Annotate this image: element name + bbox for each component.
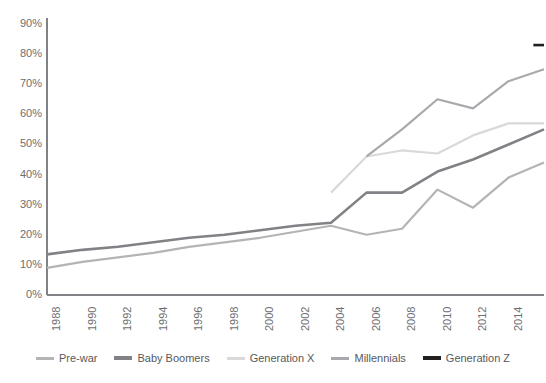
x-tick-2010: 2010	[442, 307, 453, 331]
x-tick-2000: 2000	[264, 307, 275, 331]
legend-swatch-icon	[423, 356, 441, 360]
line-chart: 90%80%70%60%50%40%30%20%10%0% 1988199019…	[0, 0, 546, 383]
legend-item-millennials[interactable]: Millennials	[331, 352, 405, 364]
x-tick-1990: 1990	[87, 307, 98, 331]
y-tick-0: 0%	[2, 289, 42, 300]
chart-legend: Pre-warBaby BoomersGeneration XMillennia…	[0, 352, 546, 364]
x-tick-2008: 2008	[406, 307, 417, 331]
legend-swatch-icon	[114, 356, 132, 360]
x-tick-2014: 2014	[513, 307, 524, 331]
y-tick-20: 20%	[2, 229, 42, 240]
x-tick-2012: 2012	[477, 307, 488, 331]
x-tick-1992: 1992	[122, 307, 133, 331]
series-line-baby-boomers	[47, 129, 544, 254]
y-tick-40: 40%	[2, 169, 42, 180]
legend-item-generation-x[interactable]: Generation X	[227, 352, 315, 364]
x-tick-1996: 1996	[193, 307, 204, 331]
legend-swatch-icon	[36, 357, 54, 360]
legend-item-pre-war[interactable]: Pre-war	[36, 352, 98, 364]
series-line-generation-x	[331, 123, 544, 192]
y-tick-90: 90%	[2, 18, 42, 29]
legend-label: Baby Boomers	[137, 352, 209, 364]
legend-item-generation-z[interactable]: Generation Z	[423, 352, 510, 364]
legend-label: Millennials	[354, 352, 405, 364]
x-tick-1998: 1998	[229, 307, 240, 331]
y-tick-80: 80%	[2, 48, 42, 59]
y-tick-30: 30%	[2, 199, 42, 210]
x-tick-2002: 2002	[300, 307, 311, 331]
y-tick-50: 50%	[2, 138, 42, 149]
y-tick-60: 60%	[2, 108, 42, 119]
y-tick-10: 10%	[2, 259, 42, 270]
x-tick-1988: 1988	[51, 307, 62, 331]
x-tick-2004: 2004	[335, 307, 346, 331]
legend-label: Pre-war	[59, 352, 98, 364]
x-tick-1994: 1994	[158, 307, 169, 331]
legend-swatch-icon	[331, 357, 349, 360]
series-line-pre-war	[47, 163, 544, 268]
legend-item-baby-boomers[interactable]: Baby Boomers	[114, 352, 209, 364]
x-tick-2006: 2006	[371, 307, 382, 331]
legend-label: Generation Z	[446, 352, 510, 364]
legend-label: Generation X	[250, 352, 315, 364]
y-tick-70: 70%	[2, 78, 42, 89]
legend-swatch-icon	[227, 357, 245, 360]
